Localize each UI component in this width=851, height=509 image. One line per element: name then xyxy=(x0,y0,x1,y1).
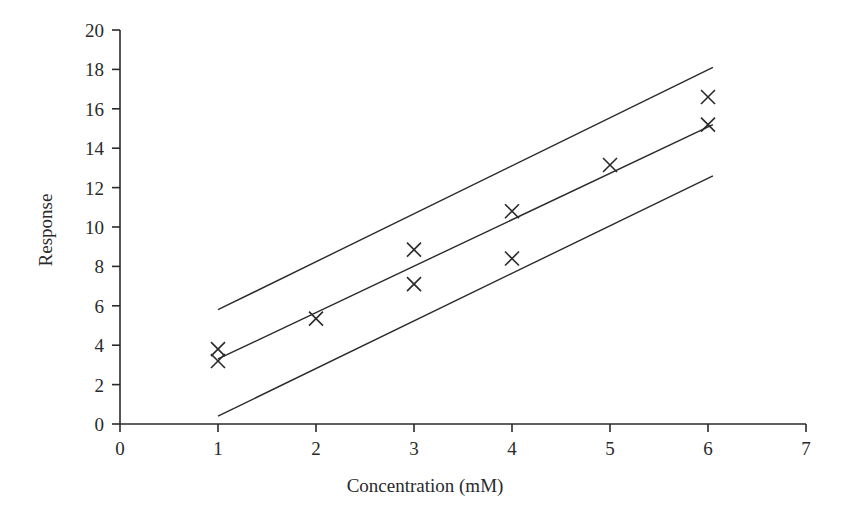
lower-confidence-line xyxy=(218,176,713,416)
x-axis-tick-label: 0 xyxy=(115,438,125,459)
y-axis-tick-label: 16 xyxy=(85,99,104,120)
x-axis-tick-label: 3 xyxy=(409,438,419,459)
x-axis-tick-label: 4 xyxy=(507,438,517,459)
x-axis-tick-label: 6 xyxy=(703,438,713,459)
x-axis-tick-label: 1 xyxy=(213,438,223,459)
regression-line xyxy=(218,125,713,359)
data-point-marker xyxy=(407,243,421,257)
y-axis-tick-label: 8 xyxy=(95,256,105,277)
y-axis-title: Response xyxy=(35,194,56,267)
y-axis-tick-label: 4 xyxy=(95,335,105,356)
x-axis-title: Concentration (mM) xyxy=(347,475,504,497)
data-point-marker xyxy=(505,252,519,266)
y-axis-tick-label: 18 xyxy=(85,59,104,80)
x-axis-tick-label: 2 xyxy=(311,438,321,459)
upper-confidence-line xyxy=(218,67,713,309)
scatter-plot-svg: 0123456702468101214161820 Concentration … xyxy=(0,0,851,509)
data-point-marker xyxy=(701,90,715,104)
data-point-marker xyxy=(211,354,225,368)
data-point-marker xyxy=(211,342,225,356)
data-point-marker xyxy=(407,277,421,291)
trend-lines-layer xyxy=(218,67,713,416)
data-point-marker xyxy=(505,204,519,218)
data-point-marker xyxy=(309,312,323,326)
x-axis-tick-label: 7 xyxy=(801,438,811,459)
tick-labels-layer: 0123456702468101214161820 xyxy=(85,20,811,459)
y-axis-tick-label: 12 xyxy=(85,178,104,199)
y-axis-tick-label: 6 xyxy=(95,296,105,317)
y-axis-tick-label: 20 xyxy=(85,20,104,41)
y-axis-tick-label: 0 xyxy=(95,414,105,435)
y-axis-tick-label: 14 xyxy=(85,138,105,159)
x-axis-tick-label: 5 xyxy=(605,438,615,459)
y-axis-tick-label: 10 xyxy=(85,217,104,238)
data-point-marker xyxy=(603,158,617,172)
y-axis-tick-label: 2 xyxy=(95,375,105,396)
chart-container: 0123456702468101214161820 Concentration … xyxy=(0,0,851,509)
